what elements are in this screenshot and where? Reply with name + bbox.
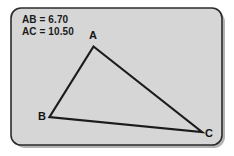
- measurement-ac-label: AC = 10.50: [22, 26, 74, 37]
- figure-canvas: AB = 6.70 AC = 10.50 A B C: [0, 0, 234, 156]
- measurement-readout: AB = 6.70 AC = 10.50: [22, 14, 74, 37]
- measurement-ab-label: AB = 6.70: [22, 14, 69, 25]
- vertex-label-b: B: [38, 110, 46, 122]
- geometry-figure: AB = 6.70 AC = 10.50 A B C: [0, 0, 234, 156]
- vertex-label-c: C: [205, 127, 213, 139]
- vertex-label-a: A: [89, 29, 97, 41]
